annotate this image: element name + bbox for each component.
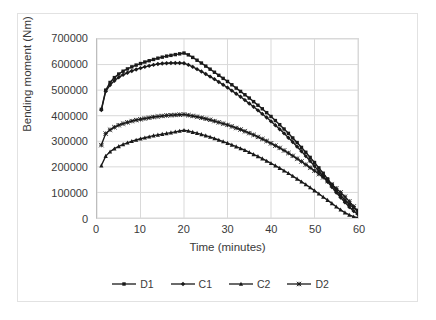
data-point-marker [121,121,125,125]
y-axis-tick-labels: 0100000200000300000400000500000600000700… [30,30,92,226]
y-tick-label: 300000 [28,135,88,147]
data-point-marker [130,69,134,73]
data-point-marker [297,282,301,286]
data-point-marker [217,74,220,77]
data-point-marker [347,199,351,203]
data-point-marker [282,148,286,152]
data-point-marker [199,116,203,120]
data-point-marker [225,123,229,127]
x-axis-title: Time (minutes) [96,241,359,253]
data-point-marker [173,113,177,117]
data-point-marker [148,59,151,62]
data-point-marker [180,282,184,286]
chart-legend: D1C1C2D2 [60,276,380,292]
data-point-marker [278,146,282,150]
legend-label: C1 [199,278,212,290]
data-point-marker [300,146,303,149]
data-point-marker [161,55,164,58]
data-point-marker [251,133,255,137]
data-point-marker [325,179,329,183]
data-point-marker [243,93,246,96]
chart-figure: Bending moment (Nm) 01000002000003000004… [0,0,436,320]
data-point-marker [156,62,160,66]
data-point-marker [151,115,155,119]
data-point-marker [125,71,129,75]
legend-label: C2 [257,278,270,290]
data-point-marker [212,119,216,123]
data-point-marker [264,139,268,143]
data-point-marker [130,119,134,123]
y-tick-label: 600000 [28,58,88,70]
data-point-marker [186,63,190,67]
data-point-marker [160,114,164,118]
legend-item-c1[interactable]: C1 [170,278,212,290]
series-d1 [100,51,358,212]
x-tick-label: 60 [339,222,379,236]
data-point-marker [169,54,172,57]
data-point-marker [330,182,334,186]
data-point-marker [208,118,212,122]
data-point-marker [182,112,186,116]
data-point-marker [130,65,133,68]
data-point-marker [143,60,146,63]
legend-label: D2 [315,278,328,290]
data-point-marker [169,113,173,117]
x-tick-label: 50 [295,222,335,236]
data-point-marker [282,127,285,130]
data-point-marker [338,190,342,194]
data-point-marker [247,131,251,135]
legend-marker-square-icon [111,279,137,289]
y-tick-label: 100000 [28,187,88,199]
y-tick-label: 700000 [28,32,88,44]
data-point-marker [99,143,103,147]
data-point-marker [182,51,185,54]
data-point-marker [243,129,247,133]
data-point-marker [308,156,311,159]
data-point-marker [174,53,177,56]
data-point-marker [260,137,264,141]
legend-item-c2[interactable]: C2 [228,278,270,290]
data-point-marker [112,125,116,129]
y-tick-label: 200000 [28,161,88,173]
data-point-marker [308,165,312,169]
data-point-marker [147,116,151,120]
y-tick-label: 500000 [28,84,88,96]
data-point-marker [304,151,307,154]
plot-area [96,38,359,219]
data-point-marker [351,204,355,208]
data-point-marker [164,113,168,117]
data-point-marker [304,162,308,166]
data-point-marker [177,112,181,116]
data-point-marker [321,175,325,179]
series-line [101,53,358,210]
data-point-marker [221,77,224,80]
data-point-marker [204,64,207,67]
legend-label: D1 [140,278,153,290]
data-point-marker [152,58,155,61]
data-point-marker [186,113,190,117]
data-point-marker [234,126,238,130]
data-point-marker [239,90,242,93]
legend-marker-diamond-icon [170,279,196,289]
data-point-marker [178,52,181,55]
series-line [101,114,358,212]
legend-item-d1[interactable]: D1 [111,278,153,290]
x-tick-label: 40 [251,222,291,236]
data-point-marker [273,143,277,147]
data-point-marker [235,86,238,89]
data-point-marker [217,120,221,124]
legend-marker-star-icon [286,279,312,289]
data-point-marker [160,61,164,65]
legend-item-d2[interactable]: D2 [286,278,328,290]
x-tick-label: 0 [76,222,116,236]
data-point-marker [261,107,264,110]
data-point-marker [143,65,147,69]
data-point-marker [343,195,347,199]
data-point-marker [191,56,194,59]
data-point-marker [134,67,138,71]
data-point-marker [317,172,321,176]
data-point-marker [286,151,290,155]
data-point-marker [139,62,142,65]
data-point-marker [252,100,255,103]
data-point-marker [356,210,358,214]
